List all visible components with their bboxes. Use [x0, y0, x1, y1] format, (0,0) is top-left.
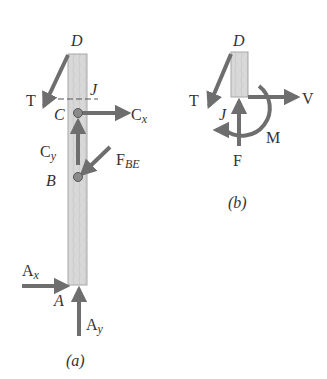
force-t-arrow-b	[209, 54, 231, 106]
label-force-v: V	[302, 90, 314, 107]
member-segment	[231, 52, 248, 97]
label-point-d-a: D	[70, 32, 83, 49]
label-force-cx: Cx	[131, 106, 148, 126]
label-force-ax: Ax	[22, 262, 40, 282]
caption-a: (a)	[66, 352, 85, 370]
label-point-d-b: D	[232, 32, 245, 49]
label-point-c: C	[54, 106, 65, 123]
label-point-j-a: J	[90, 81, 98, 98]
label-moment-m: M	[266, 129, 280, 146]
pin-b	[74, 173, 83, 182]
label-point-a: A	[53, 292, 64, 309]
free-body-diagrams: D J T C Cx Cy FBE B Ax A Ay (a) D T J V …	[0, 0, 327, 379]
label-force-t-a: T	[26, 92, 36, 109]
label-force-fbe: FBE	[116, 151, 140, 171]
pin-c	[74, 109, 83, 118]
label-force-f: F	[233, 152, 242, 169]
figure-a: D J T C Cx Cy FBE B Ax A Ay (a)	[22, 32, 148, 370]
force-t-arrow	[44, 55, 68, 106]
label-point-j-b: J	[219, 106, 227, 123]
label-force-t-b: T	[189, 92, 199, 109]
figure-b: D T J V M F (b)	[189, 32, 314, 212]
label-point-b: B	[46, 172, 56, 189]
label-force-cy: Cy	[40, 143, 57, 163]
label-force-ay: Ay	[86, 316, 104, 336]
caption-b: (b)	[228, 194, 247, 212]
